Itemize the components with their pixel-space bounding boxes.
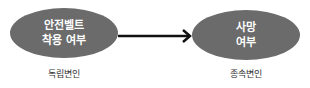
dependent-variable-caption: 종속변인 xyxy=(192,67,300,80)
independent-variable-caption: 독립변인 xyxy=(10,67,118,80)
node-label-line-1: 사망 xyxy=(236,20,256,35)
node-label-line-2: 여부 xyxy=(236,35,256,50)
dependent-variable-node: 사망 여부 xyxy=(192,10,300,60)
